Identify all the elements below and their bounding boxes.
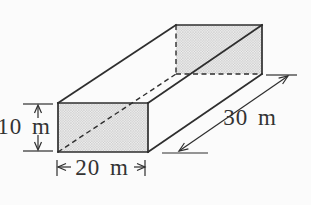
height-label: 10 m <box>0 114 51 139</box>
prism-figure-canvas: 10 m 20 m 30 m <box>0 0 311 205</box>
back-face-shaded <box>176 25 262 74</box>
arrowhead-down-left-icon <box>179 143 188 151</box>
arrowhead-up-right-icon <box>279 76 288 84</box>
edge-top-left-depth <box>58 25 176 103</box>
depth-label: 30 m <box>223 105 277 130</box>
front-face-shaded <box>58 103 148 152</box>
width-label: 20 m <box>75 155 129 180</box>
prism-diagram: 10 m 20 m 30 m <box>0 0 311 205</box>
